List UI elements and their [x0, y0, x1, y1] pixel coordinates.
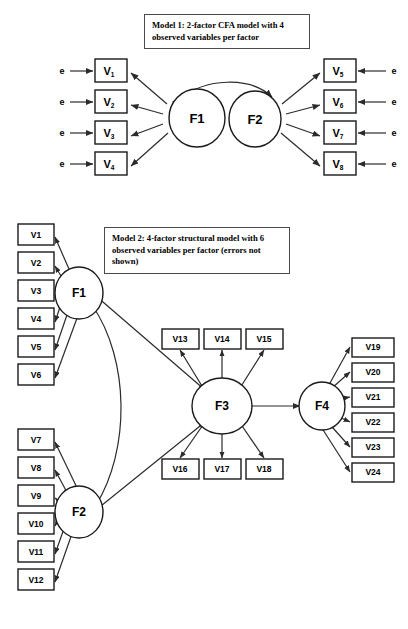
model2-variable-label-v9: V9 — [31, 491, 42, 501]
model2-variable-label-v12: V12 — [28, 575, 43, 585]
model1-error-label-right-1: e — [391, 66, 396, 76]
model1-f2-loadings — [281, 73, 320, 166]
model2-variable-label-v22: V22 — [365, 417, 380, 427]
model2-factor-label-f4: F4 — [315, 399, 329, 413]
model2-variable-label-v5: V5 — [31, 342, 42, 352]
model2-variable-label-v7: V7 — [31, 435, 42, 445]
model1-factor-label-f1: F1 — [189, 111, 204, 126]
model2-variable-label-v10: V10 — [28, 519, 43, 529]
model1-error-label-right-2: e — [391, 97, 396, 107]
model2-variable-label-v16: V16 — [172, 464, 187, 474]
model2-variable-label-v24: V24 — [365, 467, 380, 477]
model2-f2-variable-boxes — [18, 429, 54, 590]
model2-variable-label-v13: V13 — [172, 334, 187, 344]
model2-variable-label-v4: V4 — [31, 314, 42, 324]
model2-f1-variable-boxes — [18, 224, 54, 385]
model2-variable-label-v19: V19 — [365, 342, 380, 352]
model2-variable-label-v8: V8 — [31, 463, 42, 473]
model1-caption: Model 1: 2-factor CFA model with 4 obser… — [144, 14, 310, 49]
model1-error-label-left-3: e — [59, 128, 64, 138]
path-diagram-svg: e e e e e e e e V1 V2 V3 V4 V5 V6 V7 V8 … — [0, 0, 408, 629]
model2-caption: Model 2: 4-factor structural model with … — [104, 227, 290, 274]
model2-f4-variable-boxes — [352, 338, 394, 482]
model2-variable-label-v14: V14 — [214, 334, 229, 344]
model2-f1-f2-covariance-arrow — [92, 305, 121, 505]
model1-error-label-right-4: e — [391, 159, 396, 169]
model2-variable-label-v17: V17 — [214, 464, 229, 474]
model1-error-label-left-1: e — [59, 66, 64, 76]
model1-left-error-arrows — [70, 71, 93, 164]
model2-variable-label-v2: V2 — [31, 258, 42, 268]
model2-variable-label-v3: V3 — [31, 286, 42, 296]
model2-factor-label-f2: F2 — [72, 505, 86, 519]
model1-error-label-right-3: e — [391, 128, 396, 138]
model2-variable-label-v23: V23 — [365, 442, 380, 452]
model2-variable-label-v15: V15 — [256, 334, 271, 344]
model2-variable-label-v21: V21 — [365, 392, 380, 402]
model2-variable-label-v1: V1 — [31, 230, 42, 240]
model1-right-error-arrows — [358, 71, 386, 164]
model2-factor-label-f1: F1 — [72, 286, 86, 300]
model2-variable-label-v11: V11 — [29, 547, 44, 557]
model1-factor-label-f2: F2 — [247, 112, 262, 127]
model1-error-label-left-4: e — [59, 159, 64, 169]
model1-error-label-left-2: e — [59, 97, 64, 107]
model2-factor-label-f3: F3 — [215, 399, 229, 413]
model2-variable-label-v18: V18 — [256, 464, 271, 474]
diagram-canvas: e e e e e e e e V1 V2 V3 V4 V5 V6 V7 V8 … — [0, 0, 408, 629]
model2-variable-label-v6: V6 — [31, 370, 42, 380]
model2-variable-label-v20: V20 — [365, 367, 380, 377]
model1-f1-loadings — [131, 73, 168, 166]
